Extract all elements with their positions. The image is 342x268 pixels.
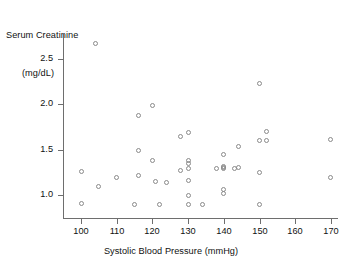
data-point [157, 202, 162, 207]
x-tick-label: 140 [209, 226, 239, 236]
data-point [136, 148, 141, 153]
y-tick [58, 104, 63, 105]
x-tick [295, 219, 296, 224]
data-point [150, 103, 155, 108]
x-tick [81, 219, 82, 224]
data-point [221, 191, 226, 196]
data-point [186, 158, 191, 163]
data-point [153, 179, 158, 184]
data-point [186, 161, 191, 166]
x-tick [224, 219, 225, 224]
x-tick [152, 219, 153, 224]
data-point [221, 165, 226, 170]
data-point [257, 81, 262, 86]
x-tick-label: 150 [245, 226, 275, 236]
data-point [232, 166, 237, 171]
data-point [178, 168, 183, 173]
data-point [132, 202, 137, 207]
y-axis-title-line1: Serum Creatinine [0, 29, 150, 42]
data-point [264, 129, 269, 134]
data-point [257, 170, 262, 175]
data-point [186, 193, 191, 198]
data-point [79, 169, 84, 174]
y-tick-label: 1.0 [23, 189, 53, 199]
x-tick-label: 110 [102, 226, 132, 236]
x-tick [117, 219, 118, 224]
x-tick [188, 219, 189, 224]
scatter-chart-figure: Serum Creatinine (mg/dL) 1.01.52.02.5100… [0, 0, 342, 268]
data-point [186, 178, 191, 183]
data-point [136, 173, 141, 178]
x-axis-title: Systolic Blood Pressure (mmHg) [0, 246, 342, 256]
y-tick [58, 195, 63, 196]
data-point [328, 137, 333, 142]
data-point [136, 113, 141, 118]
y-tick [58, 150, 63, 151]
x-tick-label: 100 [66, 226, 96, 236]
data-point [178, 134, 183, 139]
y-axis-title-line2: (mg/dL) [0, 67, 150, 80]
data-point [186, 130, 191, 135]
data-point [236, 144, 241, 149]
data-point [186, 166, 191, 171]
data-point [214, 166, 219, 171]
data-point [164, 180, 169, 185]
x-tick-label: 170 [316, 226, 342, 236]
data-point [79, 201, 84, 206]
data-point [221, 164, 226, 169]
data-point [264, 138, 269, 143]
data-point [236, 165, 241, 170]
data-point [221, 187, 226, 192]
x-tick-label: 130 [173, 226, 203, 236]
data-point [96, 184, 101, 189]
data-point [200, 202, 205, 207]
x-tick [260, 219, 261, 224]
data-point [221, 166, 226, 171]
x-tick-label: 120 [137, 226, 167, 236]
data-point [114, 175, 119, 180]
data-point [186, 202, 191, 207]
data-point [257, 202, 262, 207]
data-point [257, 138, 262, 143]
data-point [150, 158, 155, 163]
y-axis-title: Serum Creatinine (mg/dL) [0, 4, 150, 104]
x-tick [331, 219, 332, 224]
x-axis-line [63, 218, 338, 219]
data-point [328, 175, 333, 180]
data-point [221, 152, 226, 157]
x-tick-label: 160 [280, 226, 310, 236]
y-tick-label: 1.5 [23, 144, 53, 154]
